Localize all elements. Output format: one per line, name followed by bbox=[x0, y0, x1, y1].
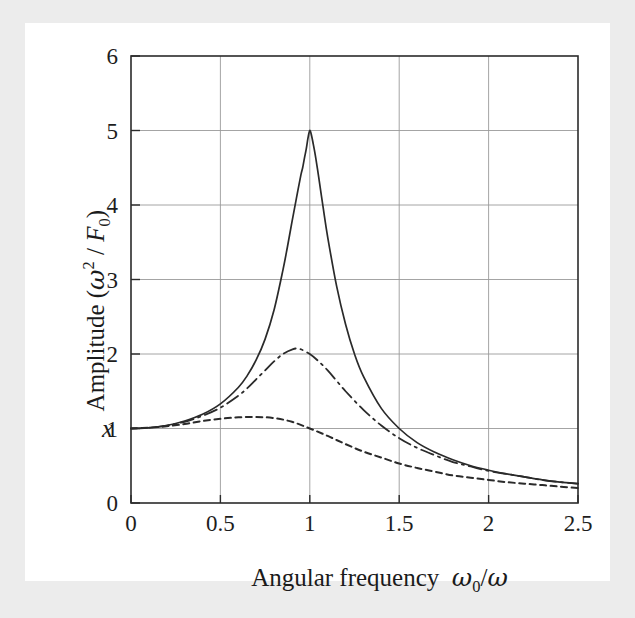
y-tick-label: 6 bbox=[107, 44, 119, 69]
x-tick-label: 2 bbox=[483, 511, 495, 536]
figure-frame: 00.511.522.50123456 Amplitude (ω2 / F0) … bbox=[0, 0, 635, 618]
y-axis-label-force-sub: 0 bbox=[95, 218, 114, 226]
grid-layer bbox=[131, 56, 578, 503]
x-axis-label-text: Angular frequency bbox=[251, 564, 439, 591]
curves-layer bbox=[131, 130, 578, 488]
figure-canvas: 00.511.522.50123456 Amplitude (ω2 / F0) … bbox=[25, 23, 610, 581]
x-tick-label: 0 bbox=[125, 511, 137, 536]
omega-symbol-icon-2: ω bbox=[487, 563, 507, 592]
omega-zero-symbol-icon: ω bbox=[452, 563, 472, 592]
x-tick-label: 2.5 bbox=[564, 511, 593, 536]
force-symbol-icon: F bbox=[82, 227, 109, 242]
omega-symbol-icon: ω bbox=[81, 269, 110, 289]
y-axis-label-divider: / bbox=[82, 242, 109, 261]
y-tick-label: 5 bbox=[107, 119, 119, 144]
x-axis-label: Angular frequency ω0/ω bbox=[156, 563, 603, 597]
y-tick-label: 0 bbox=[107, 491, 119, 516]
tick-labels-layer: 00.511.522.50123456 bbox=[107, 44, 593, 536]
x-tick-label: 1 bbox=[304, 511, 316, 536]
y-axis-label-prefix: Amplitude ( bbox=[82, 290, 109, 412]
x-tick-label: 0.5 bbox=[206, 511, 235, 536]
y-axis-label-suffix: ) bbox=[82, 210, 109, 218]
y-axis-variable-label: x bbox=[102, 415, 113, 443]
y-axis-label-exponent: 2 bbox=[79, 261, 98, 269]
data-curve-dotted bbox=[131, 417, 578, 488]
x-tick-label: 1.5 bbox=[385, 511, 414, 536]
data-curve-solid bbox=[131, 130, 578, 483]
